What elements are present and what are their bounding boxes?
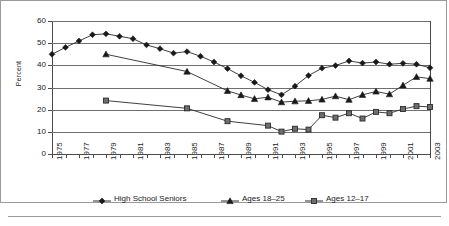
data-point-marker xyxy=(414,61,420,67)
data-point-marker xyxy=(387,111,392,116)
data-point-marker xyxy=(63,44,69,50)
data-point-marker xyxy=(413,74,419,80)
data-point-marker xyxy=(400,82,406,88)
data-point-marker xyxy=(387,61,393,67)
data-point-marker xyxy=(225,66,231,72)
data-point-marker xyxy=(103,51,109,57)
data-point-marker xyxy=(76,38,82,44)
data-point-marker xyxy=(90,32,96,38)
data-point-marker xyxy=(238,73,244,79)
data-point-marker xyxy=(293,126,298,131)
data-point-marker xyxy=(428,105,433,110)
data-point-marker xyxy=(252,80,258,86)
data-point-marker xyxy=(265,87,271,93)
legend-triangle-icon xyxy=(220,193,240,205)
data-point-marker xyxy=(360,116,365,121)
data-series xyxy=(104,98,433,134)
data-point-marker xyxy=(157,46,163,52)
data-point-marker xyxy=(103,31,109,37)
legend-diamond-icon xyxy=(92,193,112,205)
data-point-marker xyxy=(185,106,190,111)
data-point-marker xyxy=(184,49,190,55)
data-point-marker xyxy=(225,119,230,124)
data-point-marker xyxy=(279,92,285,98)
chart-figure: Percent 0102030405060 197519771979198119… xyxy=(0,0,449,226)
data-point-marker xyxy=(144,42,150,48)
data-point-marker xyxy=(347,111,352,116)
data-point-marker xyxy=(373,88,379,94)
data-point-marker xyxy=(279,129,284,134)
data-point-marker xyxy=(400,60,406,66)
data-point-marker xyxy=(401,107,406,112)
data-point-marker xyxy=(265,94,271,100)
data-point-marker xyxy=(333,115,338,120)
legend-label: Ages 12–17 xyxy=(326,194,369,204)
data-point-marker xyxy=(224,88,230,94)
data-point-marker xyxy=(130,36,136,42)
series-line xyxy=(52,34,430,95)
data-point-marker xyxy=(49,51,55,57)
data-point-marker xyxy=(117,33,123,39)
data-point-marker xyxy=(427,65,433,71)
data-series xyxy=(49,31,433,98)
data-point-marker xyxy=(266,123,271,128)
data-point-marker xyxy=(373,59,379,65)
data-point-marker xyxy=(360,60,366,66)
data-point-marker xyxy=(414,104,419,109)
chart-legend: High School SeniorsAges 18–25Ages 12–17 xyxy=(92,193,392,207)
legend-label: Ages 18–25 xyxy=(242,194,285,204)
data-point-marker xyxy=(320,113,325,118)
data-point-marker xyxy=(198,53,204,59)
data-point-marker xyxy=(333,63,339,69)
data-point-marker xyxy=(346,58,352,64)
legend-label: High School Seniors xyxy=(114,194,186,204)
data-point-marker xyxy=(306,127,311,132)
data-point-marker xyxy=(171,50,177,56)
data-point-marker xyxy=(332,93,338,99)
data-point-marker xyxy=(319,65,325,71)
data-series xyxy=(103,51,433,105)
legend-square-icon xyxy=(304,193,324,205)
data-point-marker xyxy=(211,59,217,65)
data-point-marker xyxy=(104,98,109,103)
data-point-marker xyxy=(374,109,379,114)
